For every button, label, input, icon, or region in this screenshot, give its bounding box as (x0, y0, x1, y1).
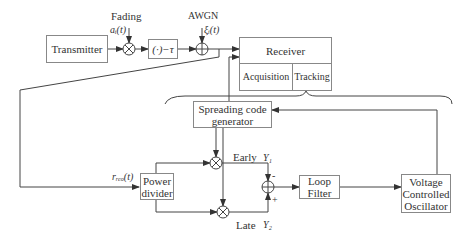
received-signal-label: rᵣₑₒ(t) (112, 171, 133, 183)
transmitter-block: Transmitter (46, 35, 108, 63)
power-divider-block: Power divider (140, 173, 174, 200)
fading-label: Fading (111, 10, 142, 22)
vco-label-3: Oscillator (404, 200, 447, 212)
fading-signal-label: aᵢ(t) (110, 24, 126, 36)
power-divider-label-2: divider (141, 187, 172, 199)
noise-signal-label: ξᵢ(t) (204, 24, 219, 36)
delay-block: (·)−τ (148, 39, 178, 59)
vco-block: Voltage Controlled Oscillator (401, 174, 451, 213)
spreading-code-label-1: Spreading code (198, 103, 266, 115)
receiver-title: Receiver (240, 38, 331, 64)
acquisition-label: Acquisition (243, 71, 290, 83)
loop-filter-label-1: Loop (308, 175, 331, 187)
receiver-label: Receiver (266, 45, 305, 57)
receiver-block: Receiver Acquisition Tracking (239, 37, 332, 91)
y2-label: Y₂ (263, 219, 272, 231)
vco-label-1: Voltage (409, 176, 442, 188)
power-divider-label-1: Power (143, 175, 171, 187)
awgn-label: AWGN (188, 10, 218, 22)
early-label: Early (233, 151, 257, 163)
spreading-code-generator-block: Spreading code generator (193, 101, 272, 128)
tracking-label: Tracking (294, 71, 330, 83)
delay-label: (·)−τ (152, 43, 173, 55)
late-label: Late (236, 219, 256, 231)
tracking-cell: Tracking (293, 64, 331, 90)
loop-filter-block: Loop Filter (299, 175, 340, 199)
transmitter-label: Transmitter (52, 43, 103, 55)
loop-filter-label-2: Filter (308, 187, 332, 199)
y1-label: Y₁ (263, 152, 272, 164)
acquisition-cell: Acquisition (240, 64, 293, 90)
spreading-code-label-2: generator (212, 115, 254, 127)
plus-sign: + (272, 194, 278, 206)
minus-sign: - (272, 170, 275, 182)
vco-label-2: Controlled (402, 188, 449, 200)
